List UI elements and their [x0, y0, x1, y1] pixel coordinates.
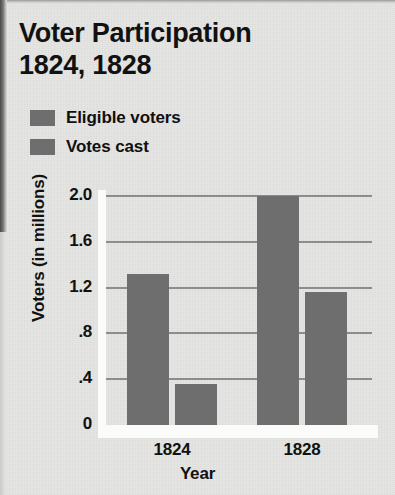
- y-tick-2.0: 2.0: [46, 185, 92, 205]
- chart-figure: Voter Participation 1824, 1828 Eligible …: [0, 0, 395, 495]
- legend-swatch-votes-cast: [30, 139, 55, 155]
- axis-gutter: [98, 190, 106, 438]
- y-tick-.8: .8: [46, 322, 92, 342]
- bar-1824-eligible-voters: [127, 274, 169, 425]
- y-axis-tick-labels: 0.4.81.21.62.0: [46, 196, 92, 425]
- bar-1824-votes-cast: [175, 384, 217, 425]
- bar-1828-eligible-voters: [257, 196, 299, 425]
- plot-area: [106, 196, 372, 425]
- y-tick-.4: .4: [46, 368, 92, 388]
- bar-1828-votes-cast: [305, 292, 347, 425]
- chart-title: Voter Participation 1824, 1828: [19, 17, 349, 81]
- legend-label-eligible-voters: Eligible voters: [66, 108, 181, 128]
- y-tick-1.6: 1.6: [46, 231, 92, 251]
- legend-item-eligible-voters: Eligible voters: [30, 103, 181, 132]
- chart-title-line-2: 1824, 1828: [19, 49, 349, 81]
- chart-legend: Eligible voters Votes cast: [30, 103, 181, 161]
- y-tick-1.2: 1.2: [46, 277, 92, 297]
- gridline-1.6: [106, 241, 372, 243]
- legend-item-votes-cast: Votes cast: [30, 132, 181, 161]
- page-left-edge-lower: [0, 232, 6, 495]
- baseline-gutter: [98, 425, 378, 438]
- page-top-edge: [0, 0, 395, 4]
- chart-title-line-1: Voter Participation: [19, 17, 349, 49]
- y-tick-0: 0: [46, 414, 92, 434]
- legend-swatch-eligible-voters: [30, 110, 55, 126]
- x-axis-title: Year: [0, 464, 395, 484]
- legend-label-votes-cast: Votes cast: [66, 137, 149, 157]
- page-left-edge: [0, 0, 7, 232]
- x-axis-tick-label-1828: 1828: [257, 440, 347, 460]
- gridline-2.0: [106, 195, 372, 197]
- plot-wrapper: [106, 196, 372, 425]
- x-axis-tick-label-1824: 1824: [127, 440, 217, 460]
